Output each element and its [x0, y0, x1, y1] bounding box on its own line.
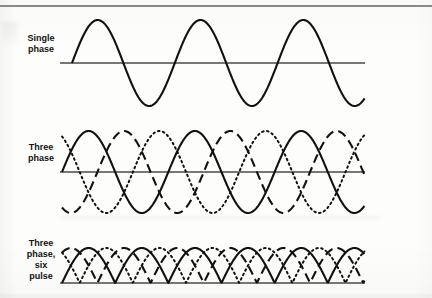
waveform-trace-phase-a-solid [62, 248, 364, 283]
waveform-plot-six-pulse [0, 0, 432, 298]
waveform-figure: Single phase Three phase Three phase, si… [0, 0, 432, 298]
